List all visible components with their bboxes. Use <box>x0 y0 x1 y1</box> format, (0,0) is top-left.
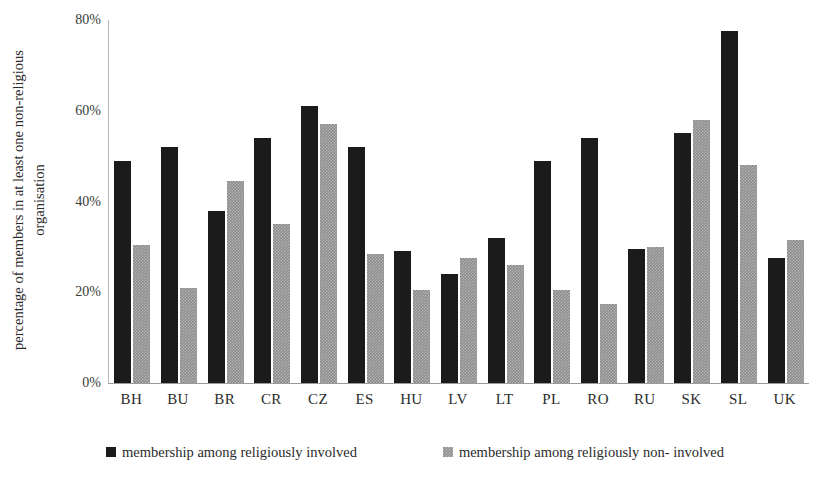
bar <box>254 138 271 383</box>
bar-group <box>716 20 763 383</box>
bar-group <box>296 20 343 383</box>
x-axis-labels: BHBUBRCRCZESHULVLTPLRORUSKSLUK <box>108 388 808 414</box>
bar <box>553 290 570 383</box>
bar <box>674 133 691 383</box>
bar <box>534 161 551 383</box>
bar-group <box>622 20 669 383</box>
bar <box>180 288 197 383</box>
bar-group <box>436 20 483 383</box>
x-axis-tick-label: RO <box>575 388 622 414</box>
x-axis-tick-label: BR <box>201 388 248 414</box>
hatched-square-icon <box>443 447 453 457</box>
bar <box>441 274 458 383</box>
bar-group <box>762 20 809 383</box>
bar-group <box>669 20 716 383</box>
y-axis-tick-label: 40% <box>49 195 101 209</box>
y-axis-tick-label: 60% <box>49 104 101 118</box>
y-axis-tick-label: 20% <box>49 285 101 299</box>
bar-group <box>576 20 623 383</box>
bar-chart: percentage of members in at least one no… <box>0 0 830 480</box>
bar-group <box>109 20 156 383</box>
x-axis-tick-label: HU <box>388 388 435 414</box>
bar <box>348 147 365 383</box>
bar <box>600 304 617 383</box>
legend-item-involved: membership among religiously involved <box>106 443 357 461</box>
bar <box>227 181 244 383</box>
legend-label-involved: membership among religiously involved <box>122 443 357 461</box>
chart-legend: membership among religiously involved me… <box>0 443 830 461</box>
bar <box>320 124 337 383</box>
plot-area: 80%60%40%20%0% <box>108 20 809 384</box>
bar <box>787 240 804 383</box>
bar <box>693 120 710 383</box>
y-axis-tick-label: 80% <box>49 13 101 27</box>
legend-item-non-involved: membership among religiously non- involv… <box>443 443 724 461</box>
bar <box>114 161 131 383</box>
bar <box>133 245 150 383</box>
x-axis-tick-label: UK <box>761 388 808 414</box>
bar <box>507 265 524 383</box>
bar-group <box>202 20 249 383</box>
x-axis-tick-label: SK <box>668 388 715 414</box>
bar <box>740 165 757 383</box>
bar <box>161 147 178 383</box>
x-axis-tick-label: CR <box>248 388 295 414</box>
dark-square-icon <box>106 447 116 457</box>
bar <box>394 251 411 383</box>
bar <box>768 258 785 383</box>
x-axis-tick-label: LV <box>435 388 482 414</box>
bar-group <box>156 20 203 383</box>
bar <box>488 238 505 383</box>
bar-group <box>482 20 529 383</box>
y-axis-title-line1: percentage of members in at least one no… <box>10 50 26 350</box>
bar-groups <box>109 20 809 383</box>
y-axis-title: percentage of members in at least one no… <box>6 10 52 390</box>
x-axis-tick-label: ES <box>341 388 388 414</box>
bar-group <box>389 20 436 383</box>
bar <box>301 106 318 383</box>
bar <box>273 224 290 383</box>
bar <box>460 258 477 383</box>
y-axis-tick-label: 0% <box>49 376 101 390</box>
bar <box>721 31 738 383</box>
bar <box>628 249 645 383</box>
legend-label-non-involved: membership among religiously non- involv… <box>459 443 724 461</box>
bar <box>647 247 664 383</box>
x-axis-tick-label: PL <box>528 388 575 414</box>
bar <box>581 138 598 383</box>
bar-group <box>342 20 389 383</box>
y-axis-title-line2: organisation <box>29 50 50 350</box>
bar <box>208 211 225 383</box>
x-axis-tick-label: CZ <box>295 388 342 414</box>
x-axis-tick-label: BU <box>155 388 202 414</box>
bar-group <box>249 20 296 383</box>
x-axis-tick-label: BH <box>108 388 155 414</box>
bar <box>413 290 430 383</box>
x-axis-tick-label: RU <box>621 388 668 414</box>
bar-group <box>529 20 576 383</box>
x-axis-tick-label: SL <box>715 388 762 414</box>
bar <box>367 254 384 383</box>
x-axis-tick-label: LT <box>481 388 528 414</box>
